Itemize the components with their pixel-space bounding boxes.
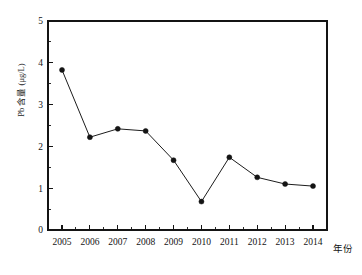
x-tick-label: 2011 xyxy=(220,237,239,247)
x-tick-label: 2006 xyxy=(80,237,99,247)
x-tick-label: 2014 xyxy=(304,237,323,247)
data-point xyxy=(60,67,65,72)
chart-container: Pb 含量 (μg/L) 012345 20052006200720082009… xyxy=(0,0,362,275)
x-tick-label: 2009 xyxy=(164,237,183,247)
data-point xyxy=(171,158,176,163)
y-tick-label: 4 xyxy=(38,58,43,68)
x-tick-label: 2013 xyxy=(276,237,295,247)
x-tick-label: 2012 xyxy=(248,237,267,247)
x-axis-tick-labels: 2005200620072008200920102011201220132014 xyxy=(53,237,323,247)
data-point xyxy=(199,199,204,204)
y-tick-label: 1 xyxy=(38,184,43,194)
x-tick-label: 2007 xyxy=(108,237,127,247)
x-tick-label: 2008 xyxy=(136,237,155,247)
data-point xyxy=(255,175,260,180)
x-tick-label: 2010 xyxy=(192,237,211,247)
series-markers-pb xyxy=(60,67,316,204)
data-point xyxy=(227,155,232,160)
y-tick-label: 2 xyxy=(38,142,43,152)
y-tick-label: 0 xyxy=(38,225,43,235)
series-line-pb xyxy=(62,70,313,202)
data-point xyxy=(115,126,120,131)
y-tick-label: 3 xyxy=(38,100,43,110)
data-point xyxy=(143,128,148,133)
line-chart-plot: 012345 200520062007200820092010201120122… xyxy=(0,0,362,275)
plot-frame xyxy=(48,21,327,230)
y-tick-label: 5 xyxy=(38,16,43,26)
data-point xyxy=(311,184,316,189)
x-axis-title: 年份 xyxy=(333,243,353,254)
data-point xyxy=(87,135,92,140)
x-tick-label: 2005 xyxy=(53,237,72,247)
data-point xyxy=(283,182,288,187)
y-axis-tick-labels: 012345 xyxy=(38,16,43,235)
